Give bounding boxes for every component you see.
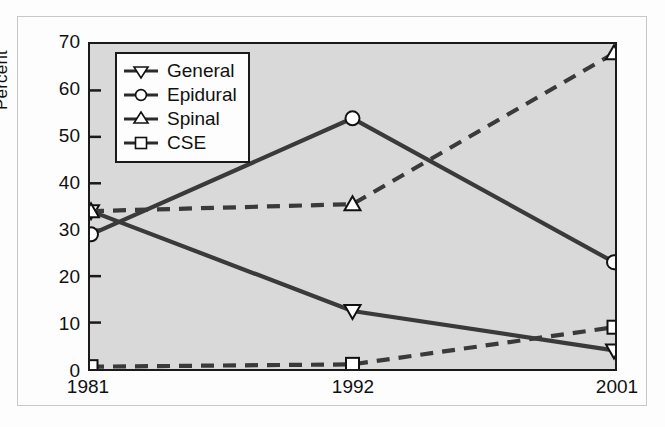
triangle-down-marker-icon	[124, 61, 158, 81]
y-tick-label: 30	[32, 219, 80, 241]
y-tick-label: 60	[32, 78, 80, 100]
y-axis-title: Percent	[0, 10, 12, 150]
legend-label: CSE	[167, 133, 206, 153]
x-tick-label: 2001	[572, 376, 662, 398]
legend-item-cse: CSE	[124, 131, 237, 155]
data-point-marker	[90, 227, 98, 241]
data-point-marker	[606, 45, 615, 59]
data-point-marker	[346, 111, 360, 125]
data-point-marker	[346, 358, 359, 369]
x-tick-label: 1981	[43, 376, 133, 398]
data-point-marker	[90, 360, 98, 369]
data-point-marker	[608, 321, 616, 334]
triangle-up-marker-icon	[124, 109, 158, 129]
y-tick-label: 70	[32, 31, 80, 53]
circle-marker-icon	[124, 85, 158, 105]
series-general	[90, 205, 615, 358]
legend-label: Spinal	[167, 109, 220, 129]
chart-figure: Percent 0 10 20 30 40 50 60 70 1981 1992…	[0, 0, 665, 427]
legend-item-spinal: Spinal	[124, 107, 237, 131]
y-tick-label: 20	[32, 266, 80, 288]
y-tick-label: 10	[32, 313, 80, 335]
legend-item-epidural: Epidural	[124, 83, 237, 107]
x-tick-label: 1992	[308, 376, 398, 398]
y-tick-label: 50	[32, 125, 80, 147]
series-cse	[90, 321, 615, 369]
data-point-marker	[607, 255, 615, 269]
legend-item-general: General	[124, 59, 237, 83]
chart-legend: General Epidural Spinal CSE	[115, 52, 250, 163]
y-axis-tick-labels: 0 10 20 30 40 50 60 70	[28, 42, 80, 371]
square-marker-icon	[124, 133, 158, 153]
legend-label: Epidural	[167, 85, 237, 105]
legend-label: General	[167, 61, 235, 81]
y-tick-label: 40	[32, 172, 80, 194]
